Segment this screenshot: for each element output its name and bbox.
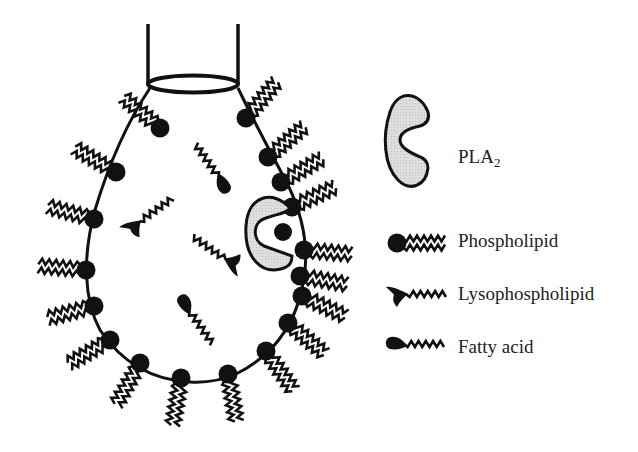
legend-fatty-acid-molecule	[386, 337, 444, 350]
pla2-label-subscript: 2	[494, 155, 501, 170]
membrane-phospholipid	[283, 180, 337, 217]
fatty-acid-tail	[193, 143, 221, 179]
lipid-tail	[72, 346, 107, 371]
fatty-acid-head	[386, 337, 407, 350]
lipid-head	[107, 163, 126, 182]
fatty-acid-head	[211, 172, 233, 197]
lipid-head	[131, 354, 150, 373]
lipid-head	[85, 210, 104, 229]
lipid-tail	[296, 180, 333, 202]
lipid-tail	[403, 236, 445, 242]
lipid-head	[85, 297, 104, 316]
lysophospholipid-icon	[386, 287, 446, 307]
lipid-head	[272, 173, 291, 192]
membrane-phospholipid	[166, 369, 191, 427]
fatty-acid-tail	[404, 341, 444, 347]
pla2-label-text: PLA	[458, 146, 494, 167]
lipid-head	[172, 369, 191, 388]
lipid-tail	[119, 370, 141, 408]
interior-lysophospholipid	[119, 193, 180, 244]
lipid-tail	[306, 303, 345, 322]
membrane-phospholipid	[295, 241, 353, 262]
fatty-acid-head	[175, 292, 197, 317]
membrane-phospholipid	[293, 287, 349, 322]
membrane-phospholipid	[237, 76, 281, 127]
vesicle-neck	[148, 24, 238, 93]
membrane-phospholipid	[68, 331, 120, 371]
pla2-enzyme-icon	[385, 95, 428, 186]
interior-molecules	[119, 141, 249, 347]
fatty-acid-tail	[187, 309, 215, 345]
interior-fatty-acid	[175, 292, 219, 347]
lipid-head	[77, 261, 96, 280]
membrane-phospholipid	[38, 259, 96, 280]
vesicle-membrane	[86, 88, 305, 382]
lipid-tail	[38, 259, 80, 268]
bound-phospholipid-head	[274, 223, 292, 241]
lipid-head	[291, 267, 310, 286]
lyso-tail	[191, 234, 227, 262]
neck-opening-ring	[148, 76, 238, 93]
membrane-phospholipids	[38, 76, 353, 426]
legend-fatty-acid-label: Fatty acid	[458, 336, 533, 358]
lipid-tail	[403, 245, 445, 251]
lipid-tail	[71, 151, 109, 173]
lipid-head	[388, 234, 407, 253]
lipid-head	[257, 342, 276, 361]
lipid-tail	[222, 381, 235, 422]
lipid-head	[259, 148, 278, 167]
lyso-tail	[406, 291, 446, 297]
lipid-head	[219, 365, 238, 384]
legend-phospholipid-label: Phospholipid	[458, 230, 558, 252]
lipid-tail	[305, 280, 347, 291]
lipid-head	[295, 241, 314, 260]
legend	[385, 95, 446, 349]
lipid-head	[279, 314, 298, 333]
legend-phospholipid-molecule	[388, 234, 446, 253]
membrane-phospholipid	[279, 314, 330, 358]
interior-lysophospholipid	[189, 226, 250, 277]
legend-lysophospholipid-molecule	[386, 287, 446, 307]
legend-lysophospholipid-label: Lysophospholipid	[458, 283, 594, 305]
fatty-acid-icon	[386, 337, 444, 350]
membrane-phospholipid	[257, 342, 300, 392]
lipid-tail	[310, 253, 352, 262]
lipid-tail	[166, 383, 177, 425]
lipid-tail	[284, 152, 319, 177]
pla2-bound-enzyme	[246, 197, 292, 270]
lipid-head	[151, 119, 170, 138]
lipid-head	[237, 109, 256, 128]
lyso-head	[220, 248, 250, 277]
interior-fatty-acid	[190, 141, 234, 196]
diagram-canvas	[0, 0, 638, 452]
lyso-tail	[138, 196, 174, 224]
phospholipid-icon	[388, 234, 446, 253]
lipid-tail	[309, 295, 348, 314]
legend-pla2-label: PLA2	[458, 146, 500, 171]
lyso-head	[386, 287, 408, 307]
membrane-phospholipid	[46, 200, 104, 228]
lipid-head	[101, 331, 120, 350]
lipid-head	[293, 287, 312, 306]
